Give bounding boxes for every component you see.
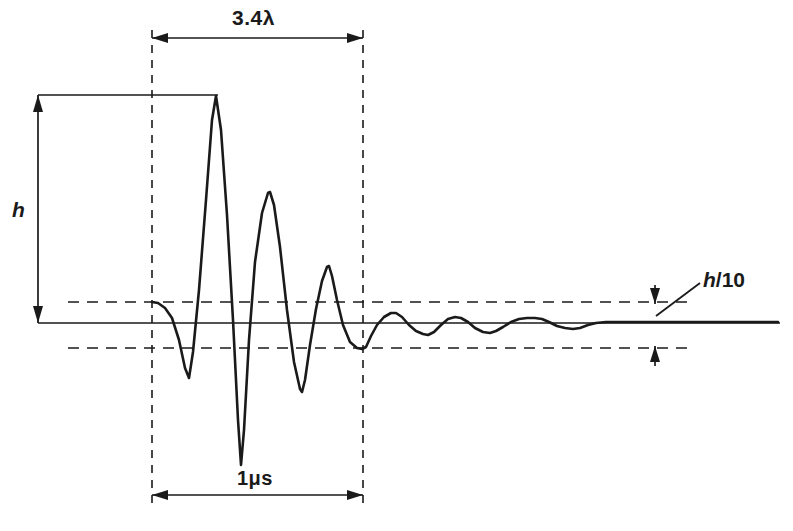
pulse-waveform-figure [0,0,793,531]
pulse-length-label: 3.4λ [232,6,275,30]
amplitude-label: h [12,198,25,222]
duration-label: 1μs [237,467,273,490]
threshold-label-symbol: h [703,268,716,291]
threshold-label-divisor: /10 [716,268,745,291]
threshold-label: h/10 [703,268,745,292]
figure-background [0,0,793,531]
